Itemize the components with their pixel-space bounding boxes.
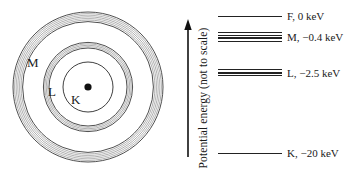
level-l-band-line — [218, 73, 282, 74]
level-m-band-line — [218, 38, 282, 39]
figure: M L K Potential energy (not to scale) F,… — [0, 0, 357, 174]
level-l-label: L, −2.5 keV — [287, 66, 340, 80]
level-l-band-line — [218, 75, 282, 76]
level-m-band — [218, 32, 282, 42]
level-l-band-line — [218, 69, 282, 70]
level-f-label: F, 0 keV — [287, 9, 324, 23]
level-m-label: M, −0.4 keV — [287, 30, 343, 44]
level-l-band — [218, 69, 282, 77]
shell-label-l: L — [48, 84, 56, 99]
level-k-label: K, −20 keV — [287, 146, 339, 160]
atom-shell-diagram: M L K — [0, 0, 178, 174]
shell-label-m: M — [27, 55, 39, 70]
axis-label: Potential energy (not to scale) — [197, 28, 209, 169]
level-m-band-line — [218, 41, 282, 42]
shell-label-k: K — [71, 92, 81, 107]
level-m-band-line — [218, 32, 282, 33]
level-k-line — [218, 153, 282, 154]
level-f-line — [218, 16, 282, 17]
nucleus-dot — [84, 83, 91, 90]
energy-axis-arrow — [181, 19, 195, 157]
